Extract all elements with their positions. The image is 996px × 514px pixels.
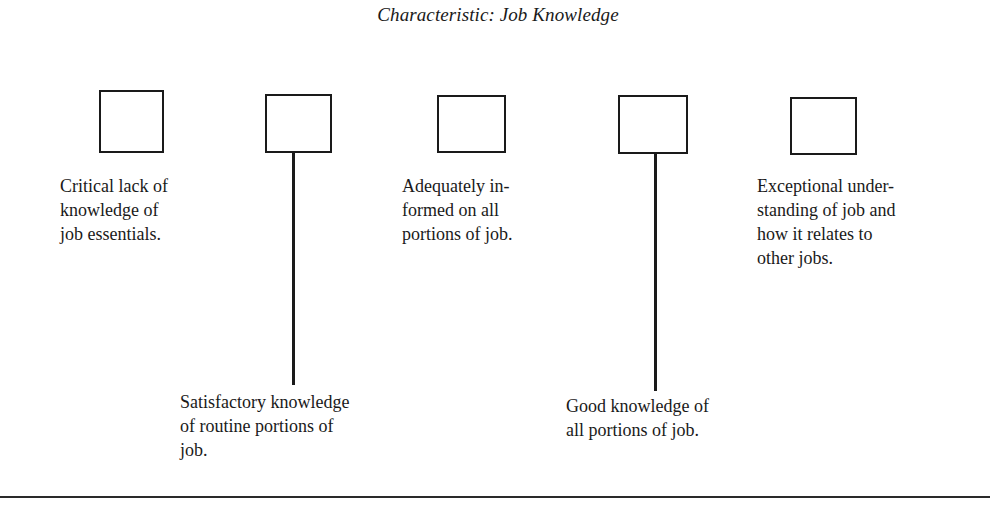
rating-checkbox-1[interactable]: [99, 90, 164, 153]
rating-checkbox-5[interactable]: [790, 97, 857, 155]
rating-checkbox-4[interactable]: [618, 95, 688, 154]
rating-checkbox-3[interactable]: [437, 95, 506, 153]
rating-description-3: Adequately in- formed on all portions of…: [402, 174, 513, 246]
rating-connector-line-2: [292, 152, 295, 385]
rating-connector-line-4: [654, 153, 657, 391]
rating-description-5: Exceptional under- standing of job and h…: [757, 174, 895, 270]
horizontal-rule: [0, 496, 990, 498]
rating-checkbox-2[interactable]: [265, 94, 332, 153]
rating-description-2: Satisfactory knowledge of routine portio…: [180, 390, 349, 462]
characteristic-title: Characteristic: Job Knowledge: [0, 4, 996, 26]
rating-description-1: Critical lack of knowledge of job essent…: [60, 174, 168, 246]
rating-description-4: Good knowledge of all portions of job.: [566, 394, 709, 442]
